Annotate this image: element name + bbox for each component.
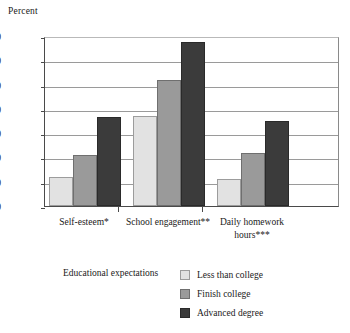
legend-item-label: Less than college	[197, 270, 263, 280]
legend-item: Less than college	[180, 265, 263, 284]
bar	[181, 42, 205, 206]
legend-item: Finish college	[180, 284, 263, 303]
y-tick-mark	[41, 184, 45, 185]
bar	[265, 121, 289, 206]
x-tick-mark	[118, 207, 119, 212]
y-tick-label: 10	[0, 178, 1, 188]
legend-item: Advanced degree	[180, 303, 263, 322]
y-tick-label: 20	[0, 153, 1, 163]
y-tick-mark	[41, 111, 45, 112]
bar	[73, 155, 97, 206]
legend-swatch-icon	[180, 270, 190, 280]
y-tick-mark	[41, 87, 45, 88]
legend-swatch-icon	[180, 289, 190, 299]
y-tick-label: 70	[0, 32, 1, 42]
bar	[133, 116, 157, 206]
bar	[49, 177, 73, 206]
bar	[157, 80, 181, 206]
legend-item-label: Advanced degree	[197, 308, 263, 318]
y-tick-mark	[41, 38, 45, 39]
legend-swatch-icon	[180, 308, 190, 318]
bar	[241, 153, 265, 206]
x-axis-category-label: Daily homework hours***	[202, 216, 302, 241]
y-tick-label: 30	[0, 129, 1, 139]
legend-title: Educational expectations	[63, 268, 158, 278]
legend: Less than collegeFinish collegeAdvanced …	[180, 265, 263, 322]
bar	[217, 179, 241, 206]
y-axis-title: Percent	[8, 6, 38, 16]
legend-item-label: Finish college	[197, 289, 251, 299]
y-tick-mark	[41, 135, 45, 136]
plot-area	[44, 37, 339, 207]
bar-chart: Percent 010203040506070 Self-esteem*Scho…	[0, 0, 350, 333]
x-tick-mark	[202, 207, 203, 212]
y-tick-mark	[41, 208, 45, 209]
bar	[97, 117, 121, 206]
y-tick-mark	[41, 62, 45, 63]
y-tick-label: 60	[0, 56, 1, 66]
y-tick-label: 50	[0, 81, 1, 91]
y-tick-label: 40	[0, 105, 1, 115]
y-tick-mark	[41, 159, 45, 160]
y-tick-label: 0	[0, 202, 1, 212]
